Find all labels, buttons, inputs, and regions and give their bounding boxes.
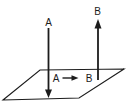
mapping-arrow <box>63 75 79 80</box>
diagram-svg: A B A B <box>0 0 127 111</box>
mapping-arrowhead-right-icon <box>72 75 79 80</box>
vector-b-arrowhead-up-icon <box>95 19 102 29</box>
vector-b-label: B <box>94 6 101 17</box>
vector-plane-diagram: A B A B <box>0 0 127 111</box>
mapping-label-b: B <box>86 73 93 84</box>
vector-a-arrow <box>45 28 52 98</box>
mapping-label-a: A <box>53 73 60 84</box>
plane-parallelogram <box>3 69 124 100</box>
vector-a-arrowhead-down-icon <box>45 90 52 99</box>
vector-b-arrow <box>95 19 102 80</box>
vector-a-label: A <box>45 17 52 28</box>
